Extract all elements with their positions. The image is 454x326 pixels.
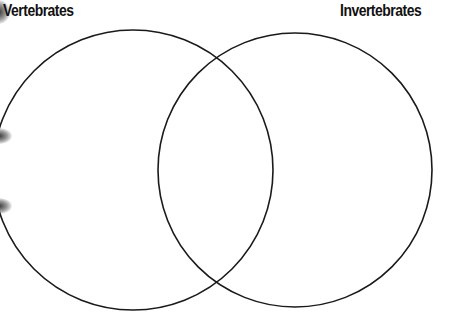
invertebrates-circle [158,33,432,307]
venn-circles [0,0,454,326]
vertebrates-circle [0,30,273,310]
invertebrates-label: Invertebrates [340,1,421,21]
vertebrates-label: Vertebrates [3,1,74,21]
venn-diagram: Vertebrates Invertebrates [0,0,454,326]
